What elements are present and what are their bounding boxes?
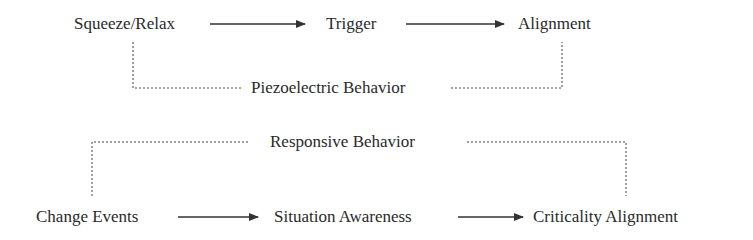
responsive-bracket-left [92,142,250,196]
responsive-behavior-label: Responsive Behavior [270,132,415,152]
node-situation-awareness: Situation Awareness [274,207,412,227]
node-alignment: Alignment [518,14,591,34]
piezoelectric-bracket-left [133,42,242,88]
node-squeeze-relax: Squeeze/Relax [74,14,175,34]
piezoelectric-bracket-right [451,42,562,88]
node-change-events: Change Events [36,207,138,227]
node-criticality-alignment: Criticality Alignment [533,207,678,227]
node-trigger: Trigger [326,14,376,34]
connector-layer [0,0,753,240]
responsive-bracket-right [467,142,626,196]
piezoelectric-behavior-label: Piezoelectric Behavior [251,78,405,98]
